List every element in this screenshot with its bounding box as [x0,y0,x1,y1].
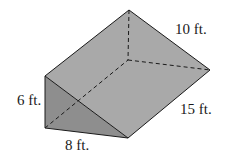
label-base: 8 ft. [65,137,89,153]
label-length: 15 ft. [180,101,212,117]
triangular-prism-diagram: 10 ft. 6 ft. 15 ft. 8 ft. [0,0,226,159]
label-slant: 10 ft. [175,21,207,37]
label-height: 6 ft. [17,92,41,108]
